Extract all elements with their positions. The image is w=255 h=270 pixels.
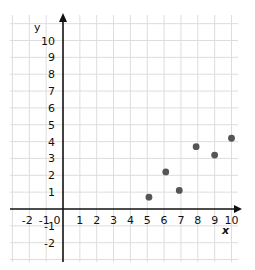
y-tick-label: -1 <box>44 220 55 233</box>
y-tick-label: 3 <box>48 152 55 165</box>
y-tick-label: 5 <box>48 119 55 132</box>
y-tick-label: 6 <box>48 102 55 115</box>
x-tick-label: 6 <box>161 214 168 227</box>
data-point <box>162 169 169 176</box>
y-tick-label: 9 <box>48 51 55 64</box>
x-axis-label: x <box>221 224 230 237</box>
x-tick-label: 2 <box>93 214 100 227</box>
data-point <box>146 194 153 201</box>
y-tick-label: 8 <box>48 68 55 81</box>
y-tick-label: 2 <box>48 169 55 182</box>
x-tick-label: -2 <box>22 214 33 227</box>
data-point <box>211 152 218 159</box>
y-tick-label: 10 <box>41 35 55 48</box>
x-tick-label: 9 <box>211 214 218 227</box>
data-point <box>228 135 235 142</box>
x-tick-label: 7 <box>177 214 184 227</box>
y-tick-label: -2 <box>44 237 55 250</box>
y-tick-label: 1 <box>48 186 55 199</box>
y-axis-label: y <box>34 21 41 34</box>
x-tick-label: 5 <box>144 214 151 227</box>
x-tick-label: 3 <box>110 214 117 227</box>
x-tick-label: 1 <box>76 214 83 227</box>
y-axis-arrow-icon <box>59 13 67 22</box>
x-axis-arrow-icon <box>234 205 242 213</box>
y-tick-label: 4 <box>48 136 55 149</box>
data-points <box>146 135 235 201</box>
x-tick-label: 8 <box>194 214 201 227</box>
scatter-chart: -2-1012345678910 10987654321-1-2 x y <box>0 0 255 270</box>
data-point <box>176 187 183 194</box>
x-tick-label: 4 <box>127 214 134 227</box>
data-point <box>193 143 200 150</box>
y-tick-label: 7 <box>48 85 55 98</box>
